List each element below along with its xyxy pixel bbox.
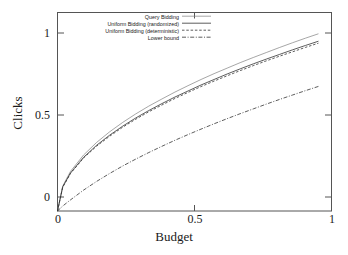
- y-tick-label-1: 1: [20, 26, 50, 41]
- legend-label-uniform-bidding-randomized: Uniform Bidding (randomized): [60, 21, 179, 27]
- legend-label-lower-bound: Lower bound: [60, 35, 179, 41]
- x-tick-label-1: 1: [317, 212, 347, 227]
- legend-label-uniform-bidding-deterministic: Uniform Bidding (deterministic): [60, 28, 179, 34]
- chart-screenshot: Budget Clicks 1 0.5 0 0 0.5 1 Query Bidd…: [0, 0, 348, 255]
- x-tick-label-0.5: 0.5: [180, 212, 210, 227]
- legend-label-query-bidding: Query Bidding: [60, 14, 179, 20]
- x-axis-title: Budget: [0, 229, 348, 245]
- x-tick-label-0: 0: [43, 212, 73, 227]
- y-tick-label-0.5: 0.5: [14, 108, 50, 123]
- y-tick-label-0: 0: [20, 190, 50, 205]
